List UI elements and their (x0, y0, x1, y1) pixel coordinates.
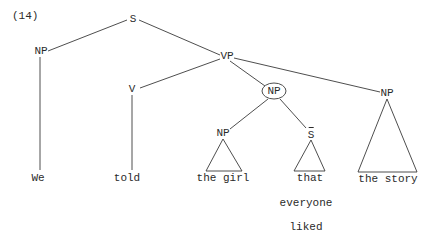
leaf-we: We (31, 172, 44, 184)
example-number: (14) (12, 10, 38, 22)
node-np-subject: NP (34, 45, 47, 57)
leaf-liked: liked (289, 221, 322, 233)
leaf-the-girl: the girl (197, 172, 250, 184)
node-vp: VP (220, 50, 233, 62)
leaf-the-story: the story (358, 173, 417, 185)
node-sbar: S (308, 129, 315, 141)
leaf-told: told (114, 172, 140, 184)
tree-edges (0, 0, 429, 240)
node-v: V (129, 83, 136, 95)
sbar-label: S (308, 129, 315, 141)
node-np-circled: NP (267, 85, 280, 97)
node-np-inner: NP (216, 127, 229, 139)
node-np-object2: NP (380, 87, 393, 99)
node-s: S (130, 13, 137, 25)
leaf-everyone: everyone (280, 197, 333, 209)
leaf-that: that (297, 172, 323, 184)
